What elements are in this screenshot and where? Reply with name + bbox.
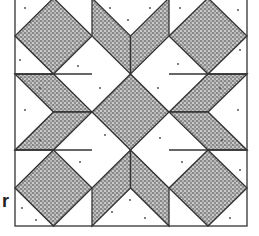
quilt-block-diagram: [0, 0, 259, 236]
side-label: r: [2, 192, 9, 210]
